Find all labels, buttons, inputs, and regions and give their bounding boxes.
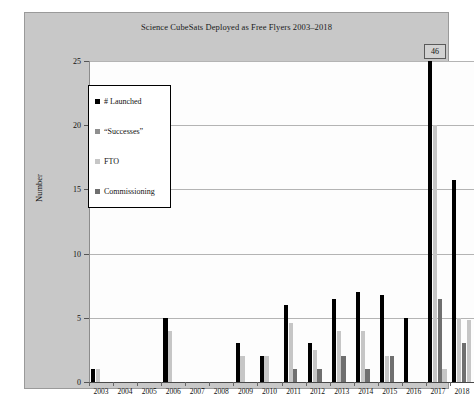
bar-launched-2006 <box>163 318 167 382</box>
bar-launched-2009 <box>236 343 240 382</box>
x-tick-label: 2010 <box>262 387 277 396</box>
bar-fto-2010 <box>264 356 268 382</box>
x-tick-label: 2008 <box>214 387 229 396</box>
bar-fto-2014 <box>361 331 365 382</box>
bar-launched-2015 <box>380 295 384 382</box>
bar-commissioning-2018 <box>462 343 466 382</box>
x-tick-label: 2009 <box>238 387 253 396</box>
x-tick-label: 2018 <box>454 387 469 396</box>
legend-item-label: FTO <box>104 157 119 166</box>
x-tick-label: 2011 <box>286 387 301 396</box>
bar-fto-2012 <box>313 350 317 382</box>
legend-item-label: “Successes” <box>104 127 143 136</box>
bar-fto-2015 <box>385 356 389 382</box>
bar-fto-2011 <box>289 323 293 382</box>
legend-swatch-icon <box>95 99 100 104</box>
value-callout-46: 46 <box>424 44 446 59</box>
legend-swatch-icon <box>95 129 100 134</box>
bar-commissioning-2014 <box>365 369 369 382</box>
bar-fto-2006 <box>168 331 172 382</box>
x-tick-label: 2006 <box>166 387 181 396</box>
x-tick-label: 2003 <box>94 387 109 396</box>
bar-commissioning-2017 <box>438 299 442 382</box>
bar-launched-2003 <box>91 369 95 382</box>
bar-launched-2016 <box>404 318 408 382</box>
bar-fto-2017 <box>433 125 437 382</box>
legend-item-fto: FTO <box>95 157 119 166</box>
x-tick-label: 2004 <box>118 387 133 396</box>
legend-item-launched: # Launched <box>95 97 142 106</box>
x-tick-label: 2013 <box>334 387 349 396</box>
x-tick-label: 2015 <box>382 387 397 396</box>
bar-launched-2013 <box>332 299 336 382</box>
gridline <box>89 318 474 319</box>
x-tick-label: 2005 <box>142 387 157 396</box>
bar-launched-2017 <box>428 61 432 382</box>
bar-fto-2018 <box>457 318 461 382</box>
x-tick-label: 2017 <box>430 387 445 396</box>
x-tick-label: 2014 <box>358 387 373 396</box>
bar-extra-2017 <box>442 369 446 382</box>
bar-extra-2018 <box>467 320 471 382</box>
gridline <box>89 61 474 62</box>
bar-commissioning-2012 <box>317 369 321 382</box>
x-axis-tick-labels: 2003200420052006200720082009201020112012… <box>89 385 474 403</box>
y-axis-title: Number <box>34 148 44 228</box>
chart-frame: Science CubeSats Deployed as Free Flyers… <box>24 12 449 389</box>
bar-commissioning-2013 <box>341 356 345 382</box>
bar-launched-2011 <box>284 305 288 382</box>
legend-swatch-icon <box>95 159 100 164</box>
legend-item-commissioning: Commissioning <box>95 187 155 196</box>
chart-legend: # Launched“Successes”FTOCommissioning <box>88 85 171 208</box>
legend-item-successes: “Successes” <box>95 127 143 136</box>
x-tick-label: 2007 <box>190 387 205 396</box>
bar-launched-2014 <box>356 292 360 382</box>
gridline <box>89 254 474 255</box>
legend-item-label: Commissioning <box>104 187 155 196</box>
legend-swatch-icon <box>95 189 100 194</box>
bar-commissioning-2011 <box>293 369 297 382</box>
x-tick-label: 2012 <box>310 387 325 396</box>
bar-fto-2013 <box>337 331 341 382</box>
x-tick-label: 2016 <box>406 387 421 396</box>
bar-fto-2009 <box>240 356 244 382</box>
bar-fto-2003 <box>96 369 100 382</box>
bar-launched-2012 <box>308 343 312 382</box>
bar-commissioning-2015 <box>390 356 394 382</box>
legend-item-label: # Launched <box>104 97 142 106</box>
bar-launched-2010 <box>260 356 264 382</box>
bar-launched-2018 <box>452 180 456 382</box>
